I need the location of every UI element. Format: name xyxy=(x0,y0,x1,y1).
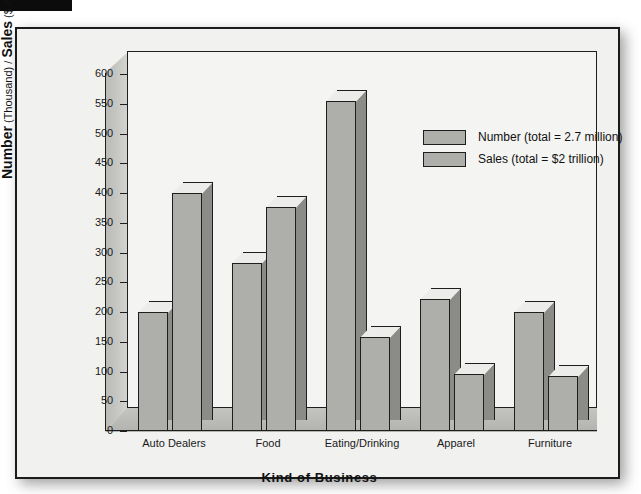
bar-top-edge xyxy=(360,337,390,338)
y-axis-tick-label: 300 xyxy=(73,246,113,258)
y-axis-tick xyxy=(120,372,127,373)
bar-side-edge xyxy=(212,193,213,420)
bar-top-edge xyxy=(326,101,356,102)
y-axis-tick-label: 100 xyxy=(73,365,113,377)
bar-sales xyxy=(548,376,578,431)
y-axis-tick xyxy=(120,312,127,313)
y-axis-tick xyxy=(120,223,127,224)
y-axis-tick xyxy=(120,431,127,432)
y-axis-tick xyxy=(120,401,127,402)
bar-top-edge xyxy=(548,376,578,377)
bar-top-edge xyxy=(454,374,484,375)
bar-top-back-edge xyxy=(465,363,495,364)
bar-number xyxy=(326,101,356,431)
bar-top-edge xyxy=(266,207,296,208)
bar-top-edge xyxy=(420,299,450,300)
bar-number xyxy=(420,299,450,431)
bar-top-back-edge xyxy=(183,182,213,183)
bar-number xyxy=(138,312,168,431)
bar-top-back-edge xyxy=(371,326,401,327)
y-axis-tick xyxy=(120,342,127,343)
y-axis-tick-label: 350 xyxy=(73,216,113,228)
x-axis-title: Kind of Business xyxy=(17,470,622,485)
y-axis-tick xyxy=(120,74,127,75)
y-axis-tick xyxy=(120,104,127,105)
y-axis-tick xyxy=(120,134,127,135)
bar-front-face xyxy=(514,312,544,431)
bar-front-face xyxy=(420,299,450,431)
legend-swatch-number xyxy=(423,130,466,145)
y-axis-tick-label: 500 xyxy=(73,127,113,139)
bar-top-back-edge xyxy=(431,288,461,289)
x-axis-category-label: Furniture xyxy=(489,437,611,449)
bar-sales xyxy=(454,374,484,431)
bar-side-edge xyxy=(306,207,307,420)
bar-top-back-edge xyxy=(559,365,589,366)
chart-frame: 050100150200250300350400450500550600 Num… xyxy=(15,27,620,479)
bar-side-edge xyxy=(588,376,589,420)
figure-root: 050100150200250300350400450500550600 Num… xyxy=(0,0,641,494)
legend-label-number: Number (total = 2.7 million) xyxy=(478,130,622,144)
y-axis-title-sales: Sales xyxy=(0,21,15,58)
legend-label-sales: Sales (total = $2 trillion) xyxy=(478,152,604,166)
bar-top-edge xyxy=(514,312,544,313)
bar-front-face xyxy=(548,376,578,431)
bar-number xyxy=(232,263,262,431)
y-axis-tick-label: 400 xyxy=(73,186,113,198)
bar-sales xyxy=(172,193,202,431)
y-axis-tick-label: 200 xyxy=(73,305,113,317)
y-axis-tick xyxy=(120,282,127,283)
bar-side-edge xyxy=(400,337,401,420)
bar-front-face xyxy=(360,337,390,431)
y-axis-tick xyxy=(120,163,127,164)
y-axis-tick xyxy=(120,193,127,194)
plot-area: 050100150200250300350400450500550600 Num… xyxy=(105,51,597,431)
y-axis-title-number: Number xyxy=(0,126,15,179)
y-axis-title: Number (Thousand) / Sales ($ Billions) xyxy=(0,0,15,179)
bar-top-edge xyxy=(138,312,168,313)
bar-sales xyxy=(360,337,390,431)
bar-top-back-edge xyxy=(525,301,555,302)
bar-top-edge xyxy=(172,193,202,194)
bar-side-edge xyxy=(494,374,495,420)
bar-front-face xyxy=(326,101,356,431)
y-axis-title-thousand: (Thousand) / xyxy=(2,58,14,126)
bar-top-edge xyxy=(232,263,262,264)
y-axis-tick-label: 600 xyxy=(73,67,113,79)
bar-front-face xyxy=(266,207,296,431)
y-axis-tick-label: 50 xyxy=(73,394,113,406)
y-axis-tick-label: 250 xyxy=(73,275,113,287)
bar-front-face xyxy=(138,312,168,431)
legend-swatch-sales xyxy=(423,152,466,167)
y-axis-tick-label: 150 xyxy=(73,335,113,347)
bar-front-face xyxy=(232,263,262,431)
bar-top-back-edge xyxy=(337,90,367,91)
bar-top-back-edge xyxy=(277,196,307,197)
bar-front-face xyxy=(454,374,484,431)
bar-number xyxy=(514,312,544,431)
y-axis-tick-label: 550 xyxy=(73,97,113,109)
y-axis-title-billions: ($ Billions) xyxy=(2,0,14,21)
bar-sales xyxy=(266,207,296,431)
y-axis-tick-label: 450 xyxy=(73,156,113,168)
y-axis-tick-label: 0 xyxy=(73,424,113,436)
bar-front-face xyxy=(172,193,202,431)
y-axis-tick xyxy=(120,253,127,254)
